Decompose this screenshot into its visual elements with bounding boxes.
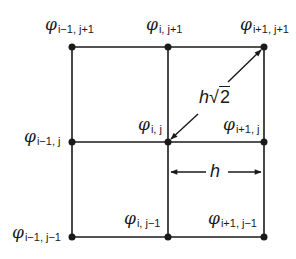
phi-symbol: φ [12, 222, 24, 242]
phi-symbol: φ [208, 208, 220, 228]
horizontal-dimension-label: h [208, 162, 222, 180]
node-subscript: i+1, j [236, 123, 260, 135]
node-subscript: i+1, j+1 [253, 23, 289, 35]
phi-symbol: φ [24, 126, 36, 146]
node-label-center: φi, j [138, 116, 162, 135]
diagonal-dimension-label: h√2 [199, 88, 230, 106]
node-subscript: i, j+1 [159, 23, 183, 35]
node-subscript: i−1, j+1 [58, 23, 94, 35]
diagonal-h: h [199, 87, 209, 107]
phi-symbol: φ [240, 14, 252, 34]
node-label-middle-right: φi+1, j [223, 116, 259, 135]
node-subscript: i+1, j−1 [221, 217, 257, 229]
node-subscript: i, j−1 [137, 217, 161, 229]
node-label-bottom-right: φi+1, j−1 [208, 210, 257, 229]
node-label-middle-left: φi−1, j [24, 128, 60, 147]
radicand: 2 [219, 86, 230, 107]
node-label-top-right: φi+1, j+1 [240, 16, 289, 35]
phi-symbol: φ [223, 114, 235, 134]
phi-symbol: φ [45, 14, 57, 34]
node-label-bottom-middle: φi, j−1 [124, 210, 160, 229]
node-subscript: i, j [151, 123, 162, 135]
sqrt-icon: √ [209, 87, 219, 107]
node-subscript: i−1, j−1 [25, 231, 61, 243]
node-label-bottom-left: φi−1, j−1 [12, 224, 61, 243]
node-label-top-left: φi−1, j+1 [45, 16, 94, 35]
node-label-top-middle: φi, j+1 [146, 16, 182, 35]
phi-symbol: φ [124, 208, 136, 228]
node-subscript: i−1, j [37, 135, 61, 147]
phi-symbol: φ [138, 114, 150, 134]
phi-symbol: φ [146, 14, 158, 34]
